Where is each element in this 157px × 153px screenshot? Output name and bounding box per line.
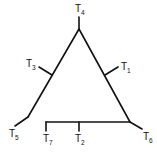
tree-diagram-svg: T1T2T3T4T5T6T7 xyxy=(0,0,157,153)
leaf-label: T3 xyxy=(26,58,36,71)
leaf-edge xyxy=(130,122,142,129)
leaf-t1: T1 xyxy=(105,61,131,75)
leaf-edge xyxy=(39,67,52,75)
leaf-t7: T7 xyxy=(43,122,53,146)
tree-diagram: T1T2T3T4T5T6T7 xyxy=(0,0,157,153)
leaf-t5: T5 xyxy=(9,117,28,141)
leaf-label: T4 xyxy=(75,3,85,16)
leaf-label: T1 xyxy=(121,61,131,74)
leaf-t4: T4 xyxy=(75,3,85,29)
leaf-t3: T3 xyxy=(26,58,52,75)
leaf-label: T2 xyxy=(75,133,85,146)
leaf-edge xyxy=(105,67,118,75)
internal-edge-0 xyxy=(28,29,79,117)
leaf-t2: T2 xyxy=(75,122,85,146)
leaf-edge xyxy=(15,117,28,126)
leaf-label: T6 xyxy=(143,131,153,144)
leaf-label: T5 xyxy=(9,128,19,141)
tree-edges xyxy=(28,29,130,122)
tree-leaves: T1T2T3T4T5T6T7 xyxy=(9,3,153,146)
leaf-label: T7 xyxy=(43,133,53,146)
leaf-t6: T6 xyxy=(130,122,153,144)
